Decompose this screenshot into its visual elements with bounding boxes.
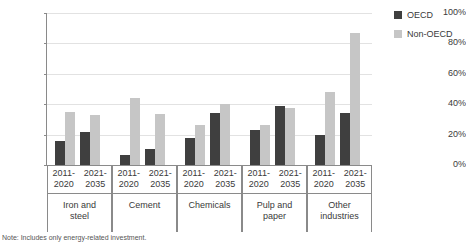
bar-non-oecd — [350, 33, 360, 165]
bar-oecd — [185, 138, 195, 165]
chart-footnote: Note: Includes only energy-related inves… — [2, 234, 464, 242]
bar-non-oecd — [155, 114, 165, 165]
bar-group — [307, 13, 372, 165]
period-label: 2021-2035 — [275, 166, 307, 193]
bar-oecd — [145, 149, 155, 165]
category-group: 2011-20202021-2035Chemicals — [177, 166, 242, 232]
bar-oecd — [210, 113, 220, 165]
period-labels: 2011-20202021-2035 — [178, 166, 241, 194]
legend-swatch-icon — [394, 30, 402, 38]
bar-oecd — [120, 155, 130, 165]
y-tick-label: 40% — [426, 99, 466, 108]
legend-item: OECD — [394, 10, 466, 20]
period-label: 2011-2020 — [113, 166, 145, 193]
period-label: 2011-2020 — [48, 166, 80, 193]
bar-group — [112, 13, 177, 165]
plot-area — [47, 13, 372, 165]
bar-pair — [120, 13, 141, 165]
period-labels: 2011-20202021-2035 — [243, 166, 306, 194]
bar-oecd — [315, 135, 325, 165]
y-tick-label: 0% — [426, 160, 466, 169]
bar-oecd — [275, 106, 285, 165]
period-label: 2021-2035 — [80, 166, 112, 193]
bar-non-oecd — [260, 125, 270, 165]
period-label: 2021-2035 — [210, 166, 242, 193]
bar-pair — [275, 13, 296, 165]
bar-pair — [340, 13, 361, 165]
bar-pair — [55, 13, 76, 165]
period-label: 2021-2035 — [340, 166, 372, 193]
chart-legend: OECDNon-OECD — [394, 10, 466, 48]
period-label: 2011-2020 — [178, 166, 210, 193]
y-tick-label: 60% — [426, 69, 466, 78]
category-label: Otherindustries — [308, 195, 371, 222]
category-label: Iron andsteel — [48, 195, 111, 222]
category-group: 2011-20202021-2035Otherindustries — [307, 166, 372, 232]
bar-pair — [185, 13, 206, 165]
legend-label: Non-OECD — [407, 29, 453, 39]
bar-non-oecd — [130, 98, 140, 165]
category-group: 2011-20202021-2035Cement — [112, 166, 177, 232]
legend-label: OECD — [407, 10, 433, 20]
bar-non-oecd — [90, 115, 100, 165]
period-label: 2011-2020 — [308, 166, 340, 193]
category-group: 2011-20202021-2035Iron andsteel — [47, 166, 112, 232]
bar-pair — [80, 13, 101, 165]
bar-non-oecd — [285, 108, 295, 165]
bar-oecd — [55, 141, 65, 165]
bar-oecd — [80, 132, 90, 165]
category-label: Pulp andpaper — [243, 195, 306, 222]
bar-group — [47, 13, 112, 165]
bar-oecd — [250, 130, 260, 165]
bar-pair — [145, 13, 166, 165]
period-labels: 2011-20202021-2035 — [113, 166, 176, 194]
category-group: 2011-20202021-2035Pulp andpaper — [242, 166, 307, 232]
bar-pair — [315, 13, 336, 165]
bar-pair — [210, 13, 231, 165]
bar-non-oecd — [195, 125, 205, 165]
period-labels: 2011-20202021-2035 — [48, 166, 111, 194]
period-label: 2011-2020 — [243, 166, 275, 193]
bar-non-oecd — [325, 92, 335, 165]
legend-item: Non-OECD — [394, 29, 466, 39]
bar-oecd — [340, 113, 350, 165]
bar-non-oecd — [65, 112, 75, 165]
bar-non-oecd — [220, 104, 230, 165]
legend-swatch-icon — [394, 11, 402, 19]
category-axis: 2011-20202021-2035Iron andsteel2011-2020… — [47, 166, 372, 232]
bar-pair — [250, 13, 271, 165]
bar-group — [242, 13, 307, 165]
category-label: Cement — [113, 195, 176, 211]
category-label: Chemicals — [178, 195, 241, 211]
period-label: 2021-2035 — [145, 166, 177, 193]
period-labels: 2011-20202021-2035 — [308, 166, 371, 194]
y-tick-label: 20% — [426, 130, 466, 139]
bar-group — [177, 13, 242, 165]
